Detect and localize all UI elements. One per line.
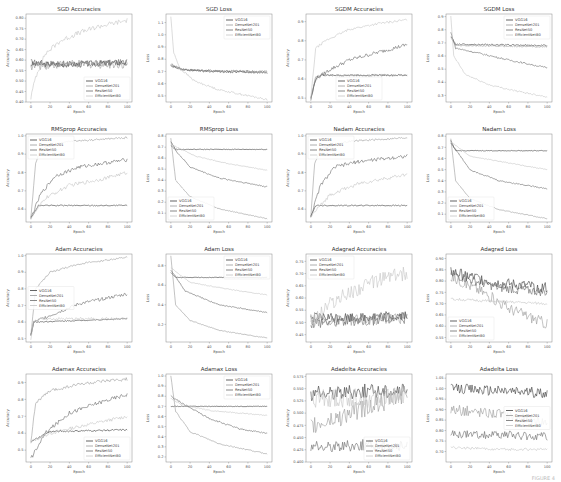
legend-label: DenseNet201 [459, 324, 484, 328]
legend-label: VGG16 [319, 138, 332, 142]
legend-label: DenseNet201 [375, 444, 400, 448]
y-tick-label: 0.575 [293, 375, 303, 379]
x-axis-label: Epoch [213, 229, 225, 234]
chart-title: Adam Loss [204, 246, 234, 252]
y-axis-label: Accuracy [5, 289, 10, 307]
legend-label: VGG16 [179, 199, 192, 203]
x-tick-label: 40 [347, 225, 352, 229]
x-tick-label: 40 [67, 465, 72, 469]
x-axis-label: Epoch [493, 469, 505, 474]
chart-adamax-loss: Adamax Loss0204060801000.20.30.40.50.60.… [140, 360, 280, 480]
y-tick-label: 1.0 [298, 134, 304, 138]
x-tick-label: 60 [506, 225, 511, 229]
y-tick-label: 0.5 [438, 67, 444, 71]
x-tick-label: 20 [188, 465, 193, 469]
y-tick-label: 0.8 [438, 28, 444, 32]
x-tick-label: 20 [188, 225, 193, 229]
y-tick-label: 0.6 [18, 431, 24, 435]
x-tick-label: 40 [67, 105, 72, 109]
x-tick-label: 60 [366, 465, 371, 469]
x-tick-label: 80 [246, 465, 251, 469]
x-tick-label: 0 [30, 465, 33, 469]
x-tick-label: 60 [506, 345, 511, 349]
y-tick-label: 0.7 [438, 146, 444, 150]
legend-label: EfficientNetB0 [235, 273, 261, 277]
y-tick-label: 0.5 [18, 337, 24, 341]
y-tick-label: 1.05 [435, 376, 443, 380]
y-tick-label: 0.65 [295, 284, 303, 288]
y-tick-label: 0.3 [158, 189, 164, 193]
legend-label: VGG16 [95, 79, 108, 83]
chart-legend: VGG16DenseNet201ResNet50EfficientNetB0 [336, 77, 382, 100]
x-axis-label: Epoch [73, 469, 85, 474]
x-tick-label: 60 [86, 345, 91, 349]
x-tick-label: 100 [124, 345, 132, 349]
y-tick-label: 0.5 [438, 168, 444, 172]
x-tick-label: 40 [67, 225, 72, 229]
x-axis-label: Epoch [213, 349, 225, 354]
y-tick-label: 0.8 [18, 398, 24, 402]
y-tick-label: 1.00 [435, 387, 444, 391]
y-tick-label: 0.6 [158, 415, 164, 419]
y-tick-label: 0.6 [158, 156, 164, 160]
legend-label: VGG16 [319, 258, 332, 262]
y-axis-label: Loss [145, 414, 150, 422]
x-tick-label: 60 [86, 105, 91, 109]
chart-title: SGD Accuracies [57, 6, 101, 12]
chart-adam-loss: Adam Loss0204060801000.20.40.60.8EpochLo… [140, 240, 280, 360]
chart-title: Adagrad Accuracies [332, 246, 387, 253]
x-tick-label: 60 [86, 465, 91, 469]
x-tick-label: 60 [226, 105, 231, 109]
y-tick-label: 1.0 [158, 374, 164, 378]
x-axis-label: Epoch [213, 109, 225, 114]
y-tick-label: 0.6 [298, 77, 304, 81]
y-tick-label: 0.1 [158, 211, 164, 215]
y-tick-label: 0.3 [158, 445, 164, 449]
y-tick-label: 0.3 [438, 94, 444, 98]
y-tick-label: 0.60 [15, 58, 24, 62]
legend-label: ResNet50 [235, 268, 253, 272]
y-tick-label: 0.450 [293, 436, 304, 440]
x-tick-label: 20 [48, 105, 53, 109]
x-tick-label: 0 [170, 225, 173, 229]
legend-label: EfficientNetB0 [235, 393, 261, 397]
chart-adadelta-loss: Adadelta Loss0204060801000.700.750.800.8… [420, 360, 560, 480]
chart-legend: VGG16DenseNet201ResNet50EfficientNetB0 [504, 407, 550, 430]
chart-adamax-acc: Adamax Accuracies0204060801000.50.60.70.… [0, 360, 140, 480]
x-axis-label: Epoch [213, 469, 225, 474]
y-axis-label: Loss [425, 294, 430, 302]
x-tick-label: 100 [544, 465, 552, 469]
chart-title: RMSprop Accuracies [51, 126, 107, 133]
y-tick-label: 0.65 [15, 48, 23, 52]
figure-grid: SGD Accuracies0204060801000.400.450.500.… [0, 0, 561, 482]
legend-label: ResNet50 [235, 388, 253, 392]
chart-title: RMSprop Loss [200, 126, 238, 133]
chart-legend: VGG16DenseNet201ResNet50EfficientNetB0 [84, 77, 130, 100]
legend-label: EfficientNetB0 [347, 94, 373, 98]
y-tick-label: 0.7 [158, 70, 164, 74]
x-tick-label: 100 [404, 465, 412, 469]
y-tick-label: 0.50 [295, 321, 304, 325]
y-tick-label: 1.0 [18, 134, 24, 138]
x-tick-label: 0 [310, 465, 313, 469]
x-tick-label: 80 [526, 225, 531, 229]
y-tick-label: 0.2 [158, 323, 164, 327]
y-tick-label: 1.1 [158, 21, 164, 25]
x-tick-label: 40 [487, 105, 492, 109]
legend-label: DenseNet201 [515, 414, 540, 418]
y-tick-label: 0.8 [298, 39, 304, 43]
x-tick-label: 20 [48, 465, 53, 469]
y-tick-label: 0.70 [435, 302, 444, 306]
y-tick-label: 0.3 [438, 190, 444, 194]
x-tick-label: 0 [30, 225, 33, 229]
x-tick-label: 100 [124, 105, 132, 109]
y-axis-label: Accuracy [285, 409, 290, 427]
x-tick-label: 80 [526, 105, 531, 109]
legend-label: VGG16 [235, 258, 248, 262]
y-tick-label: 0.400 [293, 460, 304, 464]
y-tick-label: 0.75 [295, 260, 303, 264]
y-tick-label: 0.8 [158, 264, 164, 268]
x-tick-label: 20 [468, 225, 473, 229]
y-tick-label: 0.9 [438, 15, 444, 19]
y-tick-label: 0.95 [435, 397, 443, 401]
